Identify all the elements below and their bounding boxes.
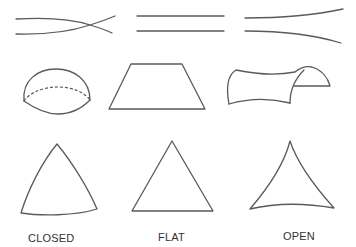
parallel-lines: [137, 16, 224, 31]
diverging-line-upper: [245, 9, 343, 18]
hemisphere-surface: [24, 69, 90, 114]
plane-surface: [109, 64, 205, 109]
open-triangle: [250, 141, 334, 209]
converging-lines: [16, 16, 115, 34]
closed-label: CLOSED: [28, 232, 74, 244]
geometry-diagram: CLOSED FLAT OPEN: [0, 0, 356, 247]
convex-triangle: [21, 144, 97, 215]
hemisphere-back-rim: [24, 87, 90, 101]
hemisphere-front-rim: [24, 100, 90, 114]
concave-triangle: [250, 141, 334, 209]
trapezoid-plane: [109, 64, 205, 109]
flat-triangle: [132, 141, 213, 211]
diagram-canvas: [0, 0, 356, 247]
diverging-lines: [245, 9, 343, 43]
saddle-bottom-edge: [229, 99, 290, 104]
diverging-line-lower: [245, 31, 341, 43]
saddle-surface: [228, 67, 330, 104]
straight-triangle: [132, 141, 213, 211]
closed-triangle: [21, 144, 97, 215]
hemisphere-dome: [24, 69, 90, 101]
saddle-top-edge: [228, 67, 330, 104]
flat-label: FLAT: [158, 231, 185, 243]
open-label: OPEN: [283, 230, 315, 242]
